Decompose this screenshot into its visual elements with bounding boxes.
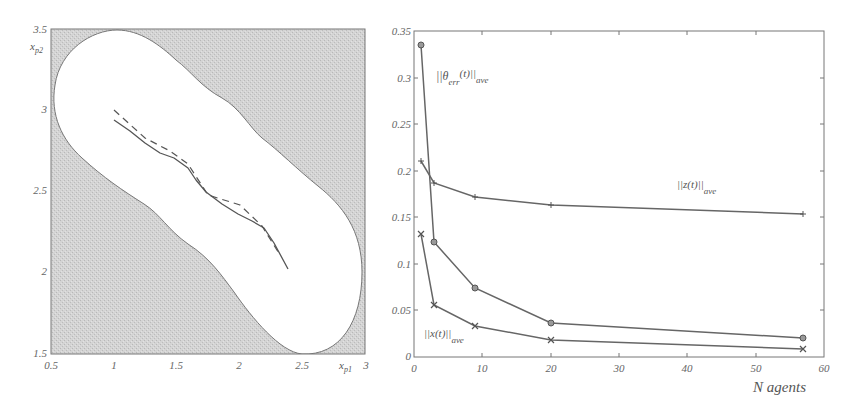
y-tick-label: 0.25 [392, 118, 412, 130]
y-tick-label: 3 [41, 103, 48, 115]
y-axis-label: xp2 [29, 40, 43, 55]
x-tick-label: 1 [111, 359, 117, 371]
x-axis-label: xp1 [338, 359, 352, 374]
x-tick-label: 2.5 [295, 359, 309, 371]
y-tick-label: 3.5 [32, 23, 47, 35]
y-tick-label: 1.5 [33, 347, 47, 359]
x-tick-label: 40 [682, 362, 694, 374]
y-tick-label: 2 [42, 265, 48, 277]
x-tick-label: 20 [546, 362, 558, 374]
left-y-axis: 1.5 2 2.5 3 3.5 xp2 [29, 23, 48, 359]
right-plot: 0 0.05 0.1 0.15 0.2 0.25 0.3 0.35 0 10 2… [392, 25, 830, 395]
x-tick-label: 0 [411, 362, 417, 374]
x-tick-label: 30 [613, 362, 626, 374]
y-tick-label: 0.2 [397, 165, 411, 177]
y-tick-label: 0.15 [392, 211, 412, 223]
x-tick-label: 60 [819, 362, 831, 374]
y-tick-label: 2.5 [33, 184, 47, 196]
x-tick-label: 2 [236, 359, 242, 371]
x-tick-label: 50 [751, 362, 763, 374]
right-x-axis: 0 10 20 30 40 50 60 N agents [411, 362, 830, 395]
y-tick-label: 0 [406, 350, 412, 362]
y-tick-label: 0.3 [397, 72, 411, 84]
x-axis-label: N agents [752, 379, 806, 395]
figure-canvas: 1.5 2 2.5 3 3.5 xp2 0.5 1 1.5 2 2.5 3 xp… [0, 0, 852, 410]
x-tick-label: 0.5 [44, 359, 58, 371]
y-tick-label: 0.35 [392, 25, 412, 37]
left-plot: 1.5 2 2.5 3 3.5 xp2 0.5 1 1.5 2 2.5 3 xp… [29, 23, 369, 374]
x-tick-label: 3 [362, 359, 369, 371]
y-tick-label: 0.05 [392, 304, 412, 316]
x-tick-label: 1.5 [169, 359, 183, 371]
x-tick-label: 10 [477, 362, 489, 374]
y-tick-label: 0.1 [397, 258, 411, 270]
right-y-axis: 0 0.05 0.1 0.15 0.2 0.25 0.3 0.35 [392, 25, 412, 362]
left-x-axis: 0.5 1 1.5 2 2.5 3 xp1 [44, 359, 369, 374]
